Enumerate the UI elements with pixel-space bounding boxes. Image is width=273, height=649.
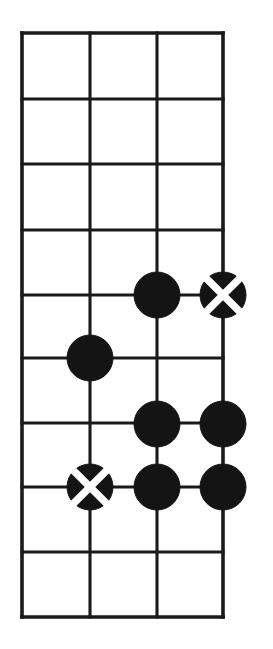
grid-vertical-lines [22,33,223,617]
stone-black[interactable] [67,335,113,381]
stone-black[interactable] [200,464,246,510]
marked-stone-black[interactable] [200,272,246,318]
stone-black[interactable] [200,401,246,447]
grid-horizontal-lines [22,33,223,617]
marked-stone-black[interactable] [67,464,113,510]
stone-black[interactable] [134,401,180,447]
stone-disc [200,464,246,510]
stone-disc [134,464,180,510]
stone-disc [134,401,180,447]
stone-disc [134,272,180,318]
stone-disc [200,401,246,447]
stone-black[interactable] [134,464,180,510]
stone-black[interactable] [134,272,180,318]
goban-svg [0,0,273,649]
go-board-diagram [0,0,273,649]
stone-disc [67,335,113,381]
